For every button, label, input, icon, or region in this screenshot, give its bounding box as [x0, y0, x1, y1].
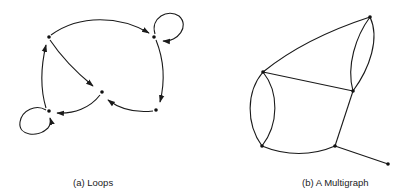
panel-a-loops-graph [20, 13, 183, 134]
figure-canvas [0, 0, 414, 194]
node-p [261, 70, 265, 74]
edge-t-u [335, 146, 388, 164]
caption-multigraph: (b) A Multigraph [302, 177, 369, 188]
edge-e-to-c [108, 100, 153, 112]
edge-b-to-e [156, 40, 163, 102]
node-r [351, 89, 355, 93]
panel-b-multigraph [250, 15, 390, 166]
node-t [333, 144, 337, 148]
caption-loops: (a) Loops [73, 177, 113, 188]
node-q [368, 15, 372, 19]
edge-t-r [335, 91, 353, 146]
edge-p-q [263, 17, 370, 72]
node-b [152, 35, 156, 39]
edge-d-to-a [42, 45, 46, 108]
edge-a-to-c [50, 40, 93, 86]
edge-p-s-1 [250, 72, 263, 146]
node-e [154, 108, 158, 112]
loop-d [20, 108, 51, 135]
edge-p-s-2 [262, 72, 275, 146]
loop-b [154, 13, 183, 41]
node-a [47, 35, 51, 39]
node-u [386, 162, 390, 166]
edge-a-to-b [51, 20, 149, 35]
edge-s-t [262, 146, 335, 154]
node-s [260, 144, 264, 148]
edge-p-r [263, 72, 353, 91]
edge-c-to-d [57, 95, 100, 113]
node-c [100, 90, 104, 94]
node-d [47, 109, 51, 113]
